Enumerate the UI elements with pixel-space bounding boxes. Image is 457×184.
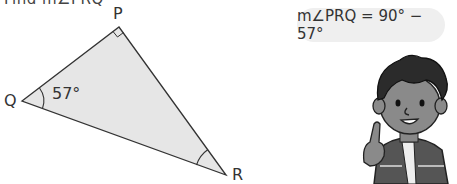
vertex-label-p: P bbox=[113, 4, 123, 23]
speech-bubble-text: m∠PRQ = 90° − 57° bbox=[297, 7, 445, 43]
boy-character-illustration bbox=[360, 50, 457, 184]
angle-q-label: 57° bbox=[52, 84, 80, 103]
speech-bubble: m∠PRQ = 90° − 57° bbox=[297, 8, 445, 42]
vertex-label-r: R bbox=[232, 165, 243, 184]
raised-finger-hand bbox=[364, 122, 385, 166]
vertex-label-q: Q bbox=[4, 91, 17, 110]
